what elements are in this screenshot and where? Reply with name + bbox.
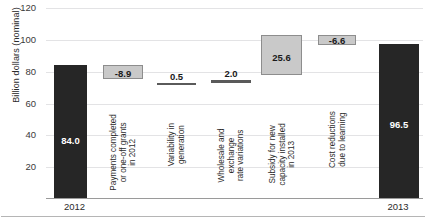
y-tick-label-80: 80 [6, 66, 36, 77]
caption-cost-reductions: Cost reductions due to learning [328, 107, 347, 173]
x-tick-label-2012: 2012 [46, 201, 103, 212]
gridline-100 [46, 40, 423, 41]
chart-frame-bottom [0, 216, 425, 217]
bar-subsidy-new-capacity[interactable]: 25.6 [261, 35, 302, 76]
caption-variability-generation: Variability in generation [167, 110, 186, 180]
y-tick-label-60: 60 [6, 98, 36, 109]
y-tick-label-100: 100 [6, 34, 36, 45]
bar-value-2013: 96.5 [379, 119, 419, 130]
bar-value-2012: 84.0 [54, 135, 87, 146]
gridline-60 [46, 104, 423, 105]
y-tick-label-20: 20 [6, 161, 36, 172]
y-tick-label-40: 40 [6, 129, 36, 140]
bar-payments-completed[interactable]: -8.9 [103, 65, 143, 79]
bar-value-payments-completed: -8.9 [104, 68, 142, 79]
waterfall-chart: Billion dollars (nominal) 120 100 80 60 … [0, 0, 425, 217]
bar-2012[interactable]: 84.0 [54, 65, 87, 198]
x-tick-label-2013: 2013 [371, 201, 425, 212]
plot-area: 84.0 -8.9 Payments completed or one-off … [46, 8, 423, 199]
bar-cost-reductions[interactable]: -6.6 [318, 35, 356, 46]
bar-wholesale-exchange[interactable] [211, 80, 251, 83]
bar-variability-generation[interactable] [157, 83, 196, 85]
y-tick-label-120: 120 [6, 2, 36, 13]
bar-value-wholesale-exchange: 2.0 [211, 68, 251, 79]
chart-frame-left [0, 0, 1, 217]
bar-2013[interactable]: 96.5 [379, 44, 419, 198]
bar-value-cost-reductions: -6.6 [319, 35, 355, 46]
axis-baseline [46, 198, 423, 199]
bar-value-variability-generation: 0.5 [157, 71, 196, 82]
bar-value-subsidy-new-capacity: 25.6 [262, 52, 301, 63]
caption-subsidy-new-capacity: Subsidy for new capacity installed in 20… [268, 114, 297, 194]
caption-payments-completed: Payments completed or one-off grants in … [109, 102, 138, 203]
caption-wholesale-exchange: Wholesale and exchange rate variations [217, 114, 246, 196]
gridline-120 [46, 8, 423, 9]
